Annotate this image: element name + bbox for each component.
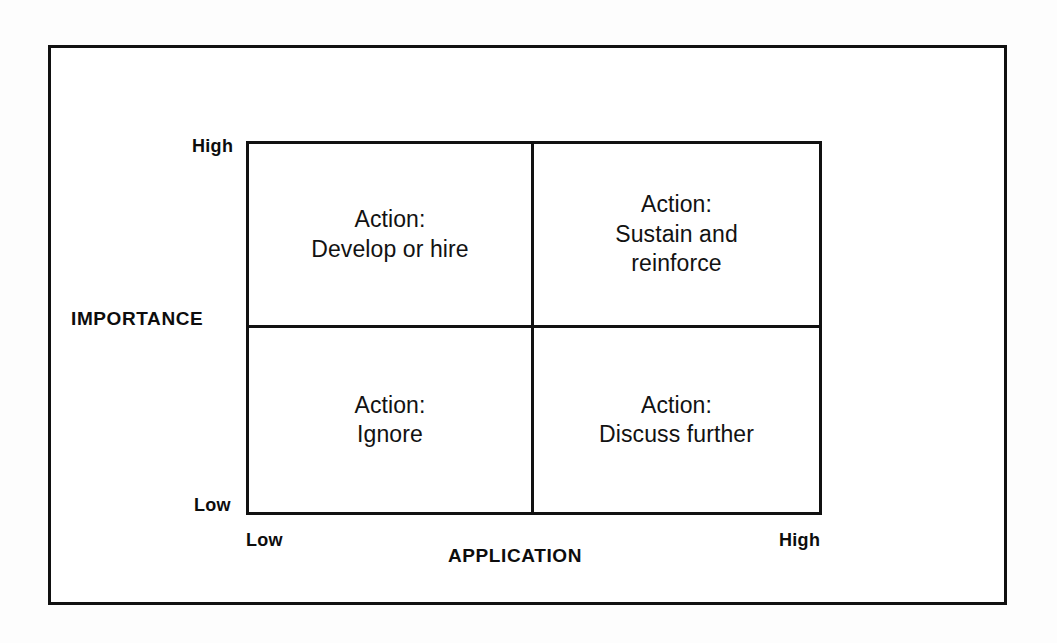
quadrant-bottom-left: Action: Ignore	[249, 328, 534, 512]
y-axis-tick-high: High	[192, 136, 233, 157]
quadrant-bottom-left-text: Action: Ignore	[354, 391, 425, 450]
quadrant-top-right-text: Action: Sustain and reinforce	[615, 190, 738, 278]
quadrant-top-left-text: Action: Develop or hire	[311, 205, 468, 264]
quadrant-bottom-right: Action: Discuss further	[534, 328, 819, 512]
y-axis-tick-low: Low	[194, 495, 231, 516]
x-axis-tick-low: Low	[246, 530, 283, 551]
quadrant-top-right: Action: Sustain and reinforce	[534, 144, 819, 328]
x-axis-title: APPLICATION	[448, 545, 582, 567]
quadrant-bottom-right-text: Action: Discuss further	[599, 391, 754, 450]
y-axis-title: IMPORTANCE	[71, 308, 203, 330]
quadrant-top-left: Action: Develop or hire	[249, 144, 534, 328]
figure-canvas: IMPORTANCE High Low APPLICATION Low High…	[0, 0, 1057, 643]
x-axis-tick-high: High	[779, 530, 820, 551]
quadrant-matrix: Action: Develop or hire Action: Sustain …	[246, 141, 822, 515]
